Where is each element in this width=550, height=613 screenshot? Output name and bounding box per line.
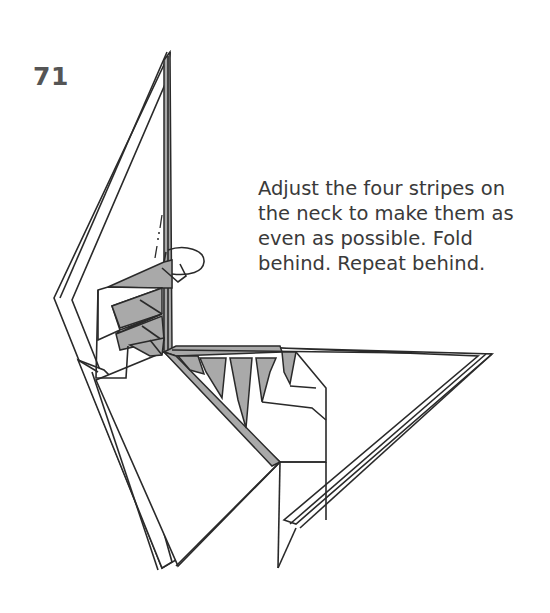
head-shaded-flap <box>108 252 172 288</box>
right-wing-flap <box>280 348 492 528</box>
origami-diagram <box>0 0 550 613</box>
valley-fold-dotted-line <box>155 215 162 258</box>
head-column <box>164 52 172 352</box>
